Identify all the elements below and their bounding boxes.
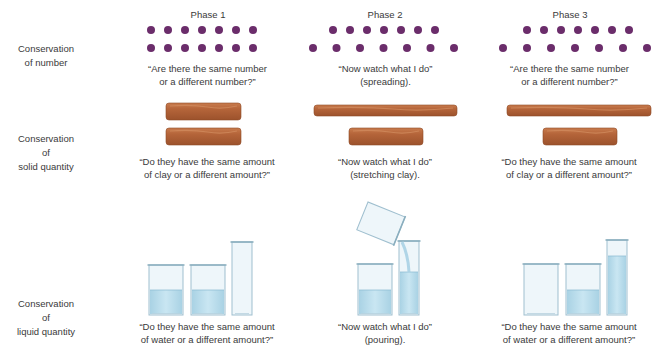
clay-ball-phase-3: [543, 128, 617, 145]
dot-phase-2: [397, 26, 405, 34]
dot-phase-2: [346, 26, 354, 34]
dot-phase-3: [608, 26, 616, 34]
dot-phase-2: [380, 44, 388, 52]
glass-body: [232, 242, 252, 315]
clay-ball-phase-2: [349, 128, 423, 145]
glass-body: [524, 264, 558, 315]
clay-group: [166, 103, 651, 145]
dot-phase-1: [164, 26, 172, 34]
dot-phase-3: [574, 26, 582, 34]
clay-body: [507, 105, 651, 116]
dot-phase-3: [523, 44, 531, 52]
dot-phase-1: [147, 44, 155, 52]
water: [400, 272, 418, 314]
dot-phase-3: [571, 44, 579, 52]
glasses-group: [148, 201, 629, 315]
dot-phase-1: [147, 26, 155, 34]
dot-phase-3: [625, 26, 633, 34]
dots-group: [147, 26, 651, 52]
conservation-illustration: [0, 0, 660, 358]
water: [192, 290, 224, 314]
dot-phase-1: [198, 26, 206, 34]
dot-phase-3: [540, 26, 548, 34]
glass-wide-phase-3-empty: [523, 264, 560, 315]
dot-phase-3: [499, 44, 507, 52]
dot-phase-2: [403, 44, 411, 52]
water: [150, 290, 182, 314]
dot-phase-2: [450, 44, 458, 52]
dot-phase-2: [363, 26, 371, 34]
dot-phase-2: [309, 44, 317, 52]
glass-tall-phase-1-empty: [231, 242, 254, 315]
dot-phase-1: [164, 44, 172, 52]
dot-phase-1: [249, 44, 257, 52]
dot-phase-2: [333, 44, 341, 52]
dot-phase-1: [249, 26, 257, 34]
dot-phase-1: [181, 26, 189, 34]
dot-phase-1: [181, 44, 189, 52]
dot-phase-2: [414, 26, 422, 34]
clay-body: [314, 105, 457, 116]
glass-wide-phase-2: [357, 264, 394, 315]
dot-phase-3: [547, 44, 555, 52]
water: [567, 290, 599, 314]
glass-tall-phase-2-filling: [398, 241, 421, 315]
glass-wide-phase-1-b: [190, 265, 227, 315]
dot-phase-1: [232, 26, 240, 34]
dot-phase-2: [380, 26, 388, 34]
dot-phase-3: [643, 44, 651, 52]
clay-stretched-phase-3: [507, 105, 651, 116]
clay-stretched-phase-2: [314, 105, 457, 116]
dot-phase-3: [591, 26, 599, 34]
dot-phase-2: [329, 26, 337, 34]
glass-wide-phase-3-filled: [565, 264, 602, 315]
dot-phase-2: [356, 44, 364, 52]
dot-phase-1: [215, 26, 223, 34]
glass-tilted-phase-2: [356, 201, 405, 246]
glass-wide-phase-1-a: [148, 265, 185, 315]
dot-phase-3: [523, 26, 531, 34]
dot-phase-3: [557, 26, 565, 34]
water: [608, 256, 626, 314]
dot-phase-2: [427, 44, 435, 52]
clay-ball-phase-1-top: [166, 103, 241, 120]
glass-tall-phase-3-filled: [606, 240, 629, 315]
dot-phase-3: [619, 44, 627, 52]
clay-ball-phase-1-bottom: [166, 128, 241, 145]
glass-body: [357, 202, 405, 245]
dot-phase-1: [198, 44, 206, 52]
dot-phase-1: [232, 44, 240, 52]
dot-phase-2: [431, 26, 439, 34]
dot-phase-3: [595, 44, 603, 52]
water: [359, 290, 391, 314]
dot-phase-1: [215, 44, 223, 52]
